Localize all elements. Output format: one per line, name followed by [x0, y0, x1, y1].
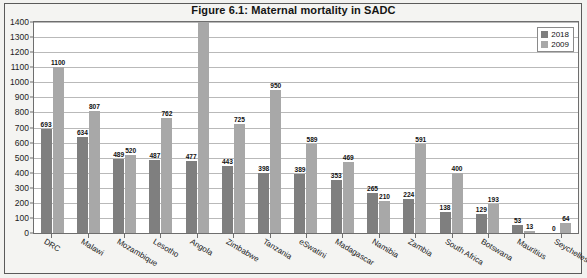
- bar-group: 5313: [505, 22, 541, 233]
- y-axis-tickmark: [30, 142, 33, 143]
- x-axis-label-cell: Tanzania: [251, 236, 287, 276]
- bar-value-label: 477: [186, 153, 197, 160]
- y-axis-tick-label: 600: [15, 138, 29, 148]
- x-axis-label-cell: Malawi: [69, 236, 105, 276]
- bar-value-label: 589: [306, 136, 317, 143]
- y-axis-tickmark: [30, 202, 33, 203]
- bar-2018-madagascar: 353: [331, 180, 342, 233]
- bar-2018-drc: 693: [41, 129, 52, 233]
- bar-group: 634807: [70, 22, 106, 233]
- x-axis-tick-label: Zambia: [407, 237, 435, 258]
- bar-2018-namibia: 265: [367, 193, 378, 233]
- bar-2018-tanzania: 398: [258, 173, 269, 233]
- bar-2009-namibia: 210: [379, 201, 390, 233]
- y-axis-tick-label: 900: [15, 92, 29, 102]
- legend-swatch: [541, 31, 548, 38]
- x-axis-tick-label: Lesotho: [152, 237, 181, 259]
- bar-2009-lesotho: 762: [161, 118, 172, 233]
- y-axis-tick-label: 300: [15, 183, 29, 193]
- bar-2018-south-africa: 138: [440, 212, 451, 233]
- x-axis-label-cell: Zambia: [397, 236, 433, 276]
- page-title: Figure 6.1: Maternal mortality in SADC: [0, 4, 587, 16]
- x-axis-labels: DRCMalawiMozambiqueLesothoAngolaZimbabwe…: [33, 236, 579, 276]
- y-axis-tickmark: [30, 52, 33, 53]
- bar-2009-drc: 1100: [53, 67, 64, 233]
- bar-value-label: 129: [476, 206, 487, 213]
- bar-2009-seychelles: 64: [560, 223, 571, 233]
- bar-group: 353469: [324, 22, 360, 233]
- legend-item-2018: 2018: [541, 30, 569, 39]
- bar-value-label: 400: [452, 165, 463, 172]
- y-axis-tickmark: [30, 187, 33, 188]
- bar-group: 064: [542, 22, 578, 233]
- bar-group: 265210: [360, 22, 396, 233]
- bar-group: 224591: [397, 22, 433, 233]
- y-axis-tickmark: [30, 82, 33, 83]
- y-axis-tickmark: [30, 157, 33, 158]
- bar-2018-mauritius: 53: [512, 225, 523, 233]
- x-axis-label-cell: Madagascar: [324, 236, 360, 276]
- bar-value-label: 1100: [51, 59, 65, 66]
- bar-value-label: 469: [343, 154, 354, 161]
- x-axis-tick-label: DRC: [43, 237, 63, 254]
- bar-value-label: 353: [331, 172, 342, 179]
- y-axis-tick-label: 100: [15, 213, 29, 223]
- bar-value-label: 591: [415, 136, 426, 143]
- y-axis-tick-label: 1400: [10, 17, 29, 27]
- bar-value-label: 725: [234, 116, 245, 123]
- y-axis-tick-label: 200: [15, 198, 29, 208]
- bar-2009-malawi: 807: [89, 111, 100, 233]
- x-axis-label-cell: South Africa: [433, 236, 469, 276]
- y-axis-tickmark: [30, 112, 33, 113]
- y-axis-tickmark: [30, 97, 33, 98]
- bar-group: 4771400: [179, 22, 215, 233]
- bar-value-label: 0: [552, 225, 556, 232]
- y-axis-tick-label: 1100: [11, 62, 29, 72]
- bar-2018-zimbabwe: 443: [222, 166, 233, 233]
- bar-group: 443725: [215, 22, 251, 233]
- bar-value-label: 210: [379, 193, 390, 200]
- legend-swatch: [541, 41, 548, 48]
- bar-value-label: 138: [440, 204, 451, 211]
- bar-value-label: 398: [258, 165, 269, 172]
- bar-value-label: 634: [77, 129, 88, 136]
- bar-2009-angola: 1400: [198, 22, 209, 233]
- y-axis-tickmark: [30, 37, 33, 38]
- x-axis-label-cell: Botswana: [470, 236, 506, 276]
- bar-value-label: 693: [41, 121, 52, 128]
- legend-label: 2018: [551, 30, 569, 39]
- bar-group: 398950: [252, 22, 288, 233]
- bar-2018-zambia: 224: [403, 199, 414, 233]
- bar-2009-madagascar: 469: [343, 162, 354, 233]
- legend-item-2009: 2009: [541, 40, 569, 49]
- bar-value-label: 762: [161, 110, 172, 117]
- y-axis-tickmark: [30, 127, 33, 128]
- bar-group: 129193: [469, 22, 505, 233]
- x-axis-tick-label: Namibia: [370, 237, 400, 260]
- x-axis-label-cell: Seychelles: [543, 236, 579, 276]
- bar-2009-mauritius: 13: [524, 231, 535, 233]
- x-axis-label-cell: Angola: [179, 236, 215, 276]
- bar-2009-south-africa: 400: [452, 173, 463, 233]
- bar-group: 489520: [107, 22, 143, 233]
- x-axis-label-cell: Namibia: [361, 236, 397, 276]
- bar-value-label: 950: [270, 82, 281, 89]
- y-axis-tickmark: [30, 217, 33, 218]
- bar-group: 487762: [143, 22, 179, 233]
- x-axis-label-cell: Zimbabwe: [215, 236, 251, 276]
- x-axis-label-cell: eSwatini: [288, 236, 324, 276]
- bar-2009-mozambique: 520: [125, 155, 136, 233]
- bar-2009-botswana: 193: [488, 204, 499, 233]
- y-axis-tick-label: 1200: [10, 47, 29, 57]
- y-axis-tick-label: 500: [15, 153, 29, 163]
- x-axis-label-cell: Lesotho: [142, 236, 178, 276]
- bar-value-label: 443: [222, 158, 233, 165]
- figure-container: Figure 6.1: Maternal mortality in SADC 6…: [0, 0, 587, 278]
- bar-2018-eswatini: 389: [294, 174, 305, 233]
- bar-groups: 6931100634807489520487762477140044372539…: [34, 22, 578, 233]
- y-axis-tick-label: 800: [15, 107, 29, 117]
- plot-area-wrapper: 6931100634807489520487762477140044372539…: [33, 21, 579, 234]
- bar-value-label: 389: [294, 166, 305, 173]
- bar-2018-malawi: 634: [77, 137, 88, 233]
- bar-value-label: 520: [125, 147, 136, 154]
